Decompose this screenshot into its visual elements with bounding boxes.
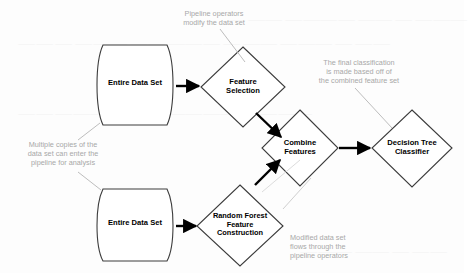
leader-multiple-copies-top xyxy=(78,123,100,140)
node-entire-data-set-bottom[interactable] xyxy=(97,189,173,261)
annotation-pipeline-operators: Pipeline operators modify the data set xyxy=(156,9,272,27)
annotation-multiple-copies: Multiple copies of the data set can ente… xyxy=(8,140,118,167)
edge-feature-selection-to-combine xyxy=(256,113,281,137)
annotation-modified-data-set: Modified data set flows through the pipe… xyxy=(290,233,386,260)
leader-multiple-copies-bottom xyxy=(78,172,101,190)
leader-final-classification xyxy=(355,88,392,128)
node-entire-data-set-top[interactable] xyxy=(97,45,173,125)
annotation-final-classification: The final classification is made based o… xyxy=(297,58,421,85)
node-combine-features[interactable] xyxy=(262,110,338,186)
node-decision-tree-classifier[interactable] xyxy=(372,110,452,187)
node-random-forest-feature-construction[interactable] xyxy=(197,185,283,266)
edge-random-forest-to-combine xyxy=(255,160,280,185)
